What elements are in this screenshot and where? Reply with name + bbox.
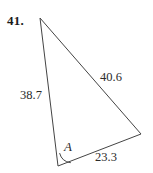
figure-container: 41. 38.7 40.6 23.3 A bbox=[0, 0, 153, 173]
side-length-label-bottom: 23.3 bbox=[95, 151, 117, 164]
side-length-label-left: 38.7 bbox=[20, 89, 42, 102]
triangle-side-left bbox=[40, 18, 58, 166]
triangle-drawing bbox=[0, 0, 153, 173]
triangle-side-right bbox=[40, 18, 141, 134]
angle-label-a: A bbox=[64, 140, 72, 154]
side-length-label-right: 40.6 bbox=[100, 71, 122, 84]
